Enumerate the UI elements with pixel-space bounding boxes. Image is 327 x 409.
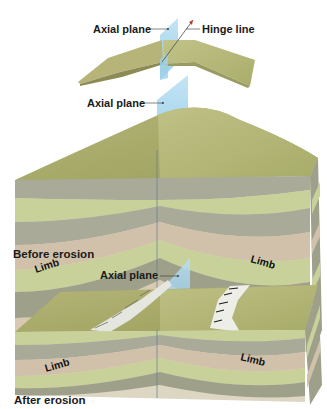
anticline-diagram: Axial plane Hinge line Axial plane [0, 0, 327, 409]
folded-layer-model: Axial plane Hinge line [78, 18, 255, 88]
axial-plane-label-middle: Axial plane [87, 97, 145, 109]
caption-after-erosion: After erosion [14, 394, 86, 406]
hinge-line-label: Hinge line [202, 23, 255, 35]
axial-plane-label-bottom: Axial plane [100, 269, 158, 281]
caption-before-erosion: Before erosion [13, 248, 94, 260]
axial-plane-label-top: Axial plane [93, 23, 151, 35]
